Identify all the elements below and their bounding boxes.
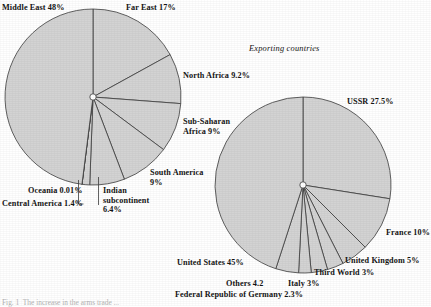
pie-exporting-countries bbox=[215, 97, 391, 273]
pie-slice-middle-east bbox=[5, 9, 93, 184]
slice-label-others: Others 4.2 bbox=[226, 279, 263, 289]
slice-label-third-world: Third World 3% bbox=[314, 268, 374, 278]
slice-label-middle-east: Middle East 48% bbox=[2, 3, 64, 13]
slice-label-far-east: Far East 17% bbox=[126, 3, 176, 13]
slice-label-indian-subcontinent: Indian subcontinent 6.4% bbox=[103, 186, 149, 215]
slice-label-ussr: USSR 27.5% bbox=[347, 97, 394, 107]
pie-hub bbox=[90, 94, 96, 100]
slice-label-north-africa: North Africa 9.2% bbox=[183, 71, 250, 81]
slice-label-united-kingdom: United Kingdom 5% bbox=[345, 256, 420, 266]
slice-label-central-america: Central America 1.4% bbox=[2, 199, 83, 209]
pie-slice-ussr bbox=[303, 97, 391, 199]
slice-label-frg: Federal Republic of Germany 2.3% bbox=[175, 290, 303, 300]
slice-label-italy: Italy 3% bbox=[288, 279, 320, 289]
slice-label-south-america: South America 9% bbox=[150, 168, 203, 187]
slice-label-united-states: United States 45% bbox=[177, 258, 244, 268]
slice-label-france: France 10% bbox=[386, 228, 430, 238]
pie-hub bbox=[300, 182, 306, 188]
slice-label-sub-saharan-africa: Sub-Saharan Africa 9% bbox=[183, 117, 230, 136]
pie-importing-regions bbox=[5, 9, 181, 185]
exporting-countries-title: Exporting countries bbox=[249, 44, 320, 53]
figure-caption: Fig. 1 The increase in the arms trade ..… bbox=[2, 298, 119, 307]
slice-label-oceania: Oceania 0.01% bbox=[28, 186, 83, 196]
